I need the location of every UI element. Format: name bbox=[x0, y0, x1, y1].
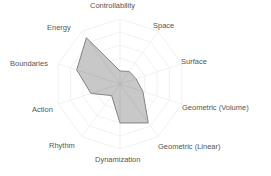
axis-label-boundaries: Boundaries bbox=[10, 60, 48, 68]
axis-label-space: Space bbox=[153, 22, 174, 30]
axis-label-surface: Surface bbox=[181, 58, 207, 66]
axis-label-controllability: Controllability bbox=[90, 2, 135, 10]
axis-label-geometric-volume: Geometric (Volume) bbox=[182, 104, 249, 112]
radar-chart: Controllability Space Surface Geometric … bbox=[0, 0, 271, 176]
axis-label-dynamization: Dynamization bbox=[95, 156, 140, 164]
radar-plot-area bbox=[0, 0, 271, 176]
axis-label-energy: Energy bbox=[47, 24, 71, 32]
axis-label-rhythm: Rhythm bbox=[49, 142, 75, 150]
axis-label-action: Action bbox=[32, 106, 53, 114]
axis-label-geometric-linear: Geometric (Linear) bbox=[158, 143, 221, 151]
